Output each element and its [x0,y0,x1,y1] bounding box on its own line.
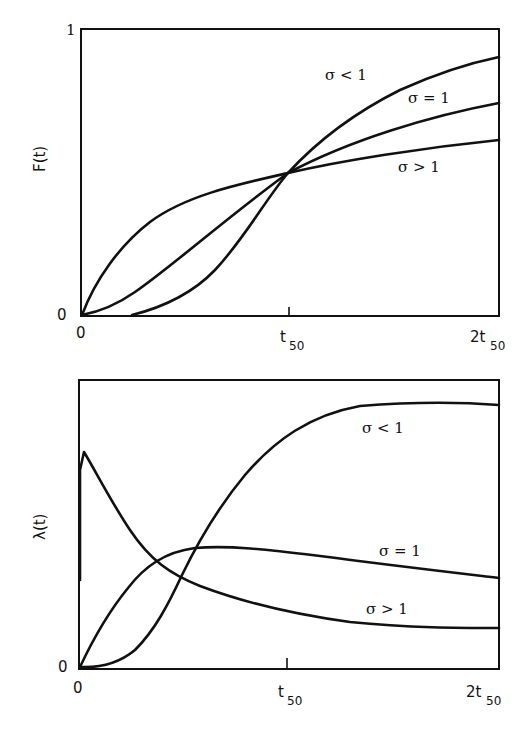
hazard-label-sigma-eq-1: σ = 1 [379,542,421,560]
hazard-curve-sigma-gt-1 [80,452,499,628]
hazard-x-tick-t50: t 50 [278,683,302,708]
cdf-x-tick-t50: t 50 [280,328,304,353]
hazard-y-axis-label: λ(t) [31,514,49,540]
hazard-x-tick-2t50: 2t 50 [466,683,501,708]
figure: 1 0 F(t) 0 t 50 2t 50 σ < 1 σ = 1 σ > 1 … [0,0,532,732]
svg-text:50: 50 [289,339,304,353]
cdf-label-sigma-eq-1: σ = 1 [408,89,450,107]
svg-text:50: 50 [287,694,302,708]
hazard-chart: 0 λ(t) 0 t 50 2t 50 σ < 1 σ = 1 σ > 1 [31,380,501,708]
svg-text:50: 50 [486,694,501,708]
cdf-label-sigma-gt-1: σ > 1 [398,158,440,176]
cdf-chart: 1 0 F(t) 0 t 50 2t 50 σ < 1 σ = 1 σ > 1 [31,21,505,353]
svg-text:2t: 2t [470,328,486,346]
hazard-x-tick-0: 0 [73,679,83,697]
hazard-label-sigma-gt-1: σ > 1 [366,600,408,618]
cdf-label-sigma-lt-1: σ < 1 [325,66,367,84]
cdf-curve-sigma-eq-1 [82,103,499,315]
svg-text:t: t [278,683,284,701]
svg-text:2t: 2t [466,683,482,701]
cdf-y-axis-label: F(t) [31,146,49,172]
hazard-curve-sigma-eq-1 [80,547,499,667]
hazard-label-sigma-lt-1: σ < 1 [362,419,404,437]
cdf-x-tick-2t50: 2t 50 [470,328,505,353]
cdf-y-tick-0: 0 [57,306,67,324]
svg-text:50: 50 [490,339,505,353]
hazard-plot-frame [79,380,499,669]
hazard-y-tick-0: 0 [58,658,68,676]
svg-text:t: t [280,328,286,346]
cdf-y-tick-1: 1 [66,21,76,39]
cdf-x-tick-0: 0 [76,324,86,342]
